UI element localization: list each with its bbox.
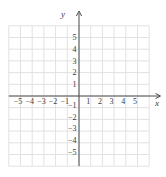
- x-tick-label: 4: [121, 97, 125, 106]
- y-tick-label: −2: [68, 113, 77, 122]
- x-tick-label: −4: [25, 97, 34, 106]
- x-tick-label: −5: [14, 97, 23, 106]
- coordinate-plane: −5−4−3−2−11234554321−1−2−3−4−5 y x: [0, 0, 166, 177]
- x-tick-label: 1: [86, 97, 90, 106]
- x-axis-label: x: [155, 99, 159, 108]
- x-tick-label: −3: [37, 97, 46, 106]
- y-tick-label: 1: [73, 80, 77, 89]
- y-tick-label: −5: [68, 148, 77, 157]
- y-tick-label: 2: [73, 68, 77, 77]
- y-tick-label: −1: [68, 101, 77, 110]
- y-tick-label: −4: [68, 136, 77, 145]
- y-tick-label: 5: [73, 33, 77, 42]
- x-tick-label: 2: [98, 97, 102, 106]
- x-tick-label: 5: [133, 97, 137, 106]
- grid-svg: −5−4−3−2−11234554321−1−2−3−4−5: [0, 0, 166, 177]
- y-axis-label: y: [61, 10, 65, 19]
- x-tick-label: −2: [49, 97, 58, 106]
- x-tick-label: 3: [110, 97, 114, 106]
- y-tick-label: −3: [68, 124, 77, 133]
- y-tick-label: 3: [73, 57, 77, 66]
- y-tick-label: 4: [73, 45, 77, 54]
